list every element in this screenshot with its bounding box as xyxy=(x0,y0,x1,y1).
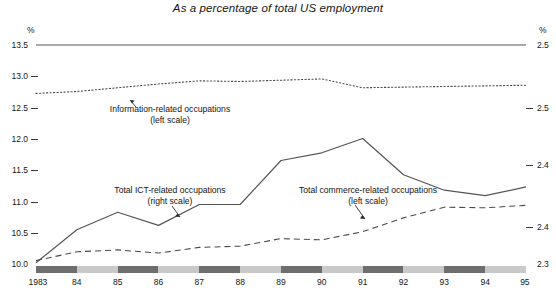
arrowhead-total-commerce-related xyxy=(360,215,365,219)
x-axis-tick-86: 86 xyxy=(154,277,163,287)
annotation-total-commerce-related: Total commerce-related occupations (left… xyxy=(288,185,448,207)
x-axis-tick-85: 85 xyxy=(113,277,122,287)
x-axis-band-segment xyxy=(444,266,485,273)
x-axis-tick-88: 88 xyxy=(235,277,244,287)
x-axis-tick-87: 87 xyxy=(195,277,204,287)
annotation-information-related: Information-related occupations (left sc… xyxy=(95,104,245,126)
x-axis-tick-84: 84 xyxy=(72,277,81,287)
x-axis-band xyxy=(36,266,526,273)
x-axis-tick-1983: 1983 xyxy=(28,277,47,287)
annotation-total-commerce-related-scale: (left scale) xyxy=(288,196,448,207)
plot-area xyxy=(0,0,556,295)
series-line-total-commerce-related xyxy=(36,205,526,260)
series-line-information-related xyxy=(36,79,526,93)
chart-container: As a percentage of total US employment %… xyxy=(0,0,556,295)
x-axis-band-segment xyxy=(403,266,444,273)
x-axis-band-segment xyxy=(485,266,526,273)
annotation-total-ict-related-label: Total ICT-related occupations xyxy=(114,185,225,195)
annotation-total-ict-related: Total ICT-related occupations (right sca… xyxy=(100,185,240,207)
annotation-information-related-scale: (left scale) xyxy=(95,115,245,126)
x-axis-tick-94: 94 xyxy=(480,277,489,287)
x-axis-band-segment xyxy=(363,266,404,273)
x-axis-band-segment xyxy=(240,266,281,273)
x-axis-tick-91: 91 xyxy=(358,277,367,287)
x-axis-tick-89: 89 xyxy=(276,277,285,287)
x-axis-band-segment xyxy=(118,266,159,273)
x-axis-tick-95: 95 xyxy=(520,277,529,287)
x-axis-band-segment xyxy=(281,266,322,273)
x-axis-band-segment xyxy=(322,266,363,273)
x-axis-tick-93: 93 xyxy=(440,277,449,287)
x-axis-tick-92: 92 xyxy=(399,277,408,287)
annotation-information-related-label: Information-related occupations xyxy=(110,104,230,114)
x-axis-band-segment xyxy=(77,266,118,273)
annotation-total-commerce-related-label: Total commerce-related occupations xyxy=(299,185,437,195)
annotation-total-ict-related-scale: (right scale) xyxy=(100,196,240,207)
x-axis-band-segment xyxy=(199,266,240,273)
x-axis-tick-90: 90 xyxy=(317,277,326,287)
x-axis-band-segment xyxy=(158,266,199,273)
x-axis-band-segment xyxy=(36,266,77,273)
